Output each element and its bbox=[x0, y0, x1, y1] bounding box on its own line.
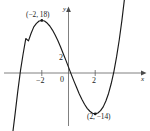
local-max-marker bbox=[40, 19, 43, 22]
cubic-function-graph-figure: ) (−2, 18) (2, −14) −2 2 0 2 x y bbox=[0, 0, 150, 131]
x-tick-label-positive-two: 2 bbox=[92, 77, 96, 85]
x-axis-label: x bbox=[141, 76, 144, 83]
y-intercept-label: 2 bbox=[59, 54, 63, 62]
x-tick-label-negative-two: −2 bbox=[36, 77, 45, 85]
local-min-annotation: (2, −14) bbox=[87, 113, 110, 120]
y-axis-label: y bbox=[63, 6, 66, 13]
origin-label: 0 bbox=[60, 76, 64, 84]
x-axis bbox=[4, 71, 147, 76]
graph-canvas bbox=[0, 0, 150, 131]
local-max-annotation: (−2, 18) bbox=[26, 11, 49, 18]
